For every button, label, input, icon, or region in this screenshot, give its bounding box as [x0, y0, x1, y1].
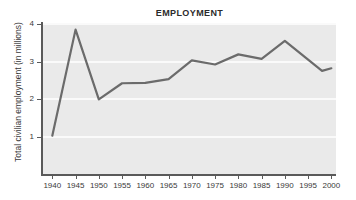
x-axis-line: [41, 174, 336, 176]
x-tick-mark-1950: [99, 174, 100, 179]
x-tick-mark-1970: [192, 174, 193, 179]
chart-title: EMPLOYMENT: [43, 8, 336, 18]
series-line-employment: [52, 30, 331, 136]
plot-wrapper: [43, 24, 336, 174]
x-tick-label-2000: 2000: [316, 181, 346, 190]
y-tick-mark-3: [37, 62, 42, 63]
x-tick-mark-1980: [238, 174, 239, 179]
x-tick-mark-1995: [308, 174, 309, 179]
x-tick-mark-1985: [262, 174, 263, 179]
x-tick-mark-1945: [76, 174, 77, 179]
x-tick-mark-1990: [285, 174, 286, 179]
x-tick-mark-1960: [145, 174, 146, 179]
y-tick-label-4: 4: [20, 19, 34, 28]
chart-figure: EMPLOYMENT Total civilian employment (in…: [0, 0, 356, 200]
y-tick-label-3: 3: [20, 57, 34, 66]
x-tick-mark-2000: [331, 174, 332, 179]
x-tick-mark-1940: [52, 174, 53, 179]
x-tick-mark-1975: [215, 174, 216, 179]
x-tick-mark-1955: [122, 174, 123, 179]
series-line-layer: [43, 24, 336, 174]
y-tick-mark-2: [37, 99, 42, 100]
y-tick-label-1: 1: [20, 132, 34, 141]
y-tick-mark-4: [37, 24, 42, 25]
y-tick-label-2: 2: [20, 94, 34, 103]
y-axis-label: Total civilian employment (in millions): [13, 7, 23, 177]
y-tick-mark-1: [37, 137, 42, 138]
x-tick-mark-1965: [169, 174, 170, 179]
